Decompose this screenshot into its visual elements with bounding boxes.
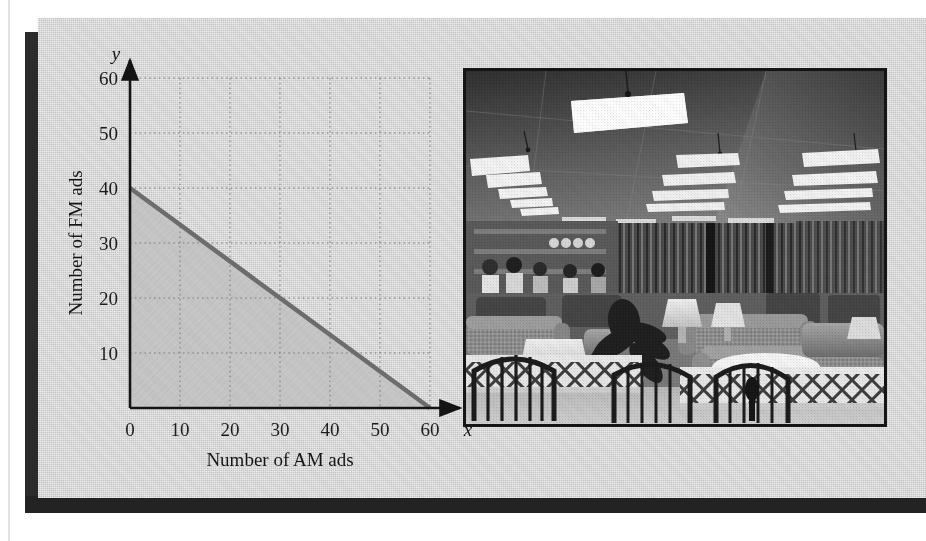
page-edge-rule xyxy=(8,0,10,541)
chart-figure: y x 60 50 40 30 20 10 0 10 20 30 40 50 6… xyxy=(60,38,480,488)
figure-panel: y x 60 50 40 30 20 10 0 10 20 30 40 50 6… xyxy=(38,18,926,498)
y-axis-title: Number of FM ads xyxy=(65,170,86,315)
y-tick-label-50: 50 xyxy=(99,123,118,144)
y-tick-label-20: 20 xyxy=(99,288,118,309)
figure-shadow-left xyxy=(25,32,38,513)
y-axis-variable-label: y xyxy=(110,43,121,64)
page-root: y x 60 50 40 30 20 10 0 10 20 30 40 50 6… xyxy=(0,0,926,541)
furniture-showroom-photo xyxy=(463,68,887,427)
y-tick-label-40: 40 xyxy=(99,178,118,199)
x-tick-label-10: 10 xyxy=(171,419,190,440)
x-tick-label-60: 60 xyxy=(421,419,440,440)
photo-svg xyxy=(466,71,884,424)
figure-shadow-bottom xyxy=(25,496,926,513)
x-tick-label-50: 50 xyxy=(371,419,390,440)
y-tick-label-30: 30 xyxy=(99,233,118,254)
x-tick-label-0: 0 xyxy=(125,419,135,440)
x-tick-label-40: 40 xyxy=(321,419,340,440)
chart-svg: y x 60 50 40 30 20 10 0 10 20 30 40 50 6… xyxy=(60,38,480,488)
x-tick-label-20: 20 xyxy=(221,419,240,440)
x-tick-label-30: 30 xyxy=(271,419,290,440)
y-tick-label-10: 10 xyxy=(99,343,118,364)
y-tick-label-60: 60 xyxy=(99,68,118,89)
x-axis-title: Number of AM ads xyxy=(206,449,353,470)
